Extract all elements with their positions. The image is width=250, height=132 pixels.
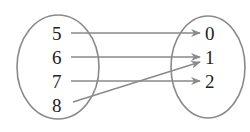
domain-element-6: 6: [52, 47, 62, 68]
range-element-1: 1: [205, 47, 215, 68]
domain-element-8: 8: [52, 95, 62, 116]
arrow-8-to-1: [73, 62, 200, 102]
range-element-2: 2: [205, 71, 215, 92]
mapping-diagram: 5 6 7 8 0 1 2: [0, 0, 250, 132]
domain-element-5: 5: [52, 23, 62, 44]
domain-element-7: 7: [52, 71, 62, 92]
range-element-0: 0: [205, 23, 215, 44]
